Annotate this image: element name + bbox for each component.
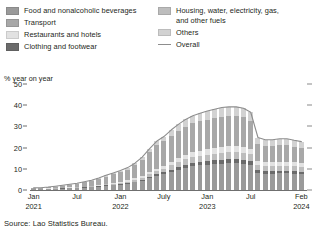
bar-segment xyxy=(234,152,239,159)
bar-column[interactable] xyxy=(182,84,189,190)
bar-segment xyxy=(140,160,145,176)
bar-segment xyxy=(299,148,304,163)
bar-column[interactable] xyxy=(66,84,73,190)
legend-label-transport: Transport xyxy=(24,18,56,28)
bar-column[interactable] xyxy=(283,84,290,190)
bar-column[interactable] xyxy=(131,84,138,190)
bar-column[interactable] xyxy=(44,84,51,190)
legend-label-housing: Housing, water, electricity, gas, and ot… xyxy=(176,6,279,25)
legend-item-overall[interactable]: Overall xyxy=(158,40,320,50)
stacked-bar xyxy=(212,109,217,190)
bar-column[interactable] xyxy=(225,84,232,190)
bar-column[interactable] xyxy=(204,84,211,190)
bar-segment xyxy=(176,170,181,190)
bar-segment xyxy=(212,154,217,161)
bar-segment xyxy=(125,170,130,181)
bar-segment xyxy=(234,163,239,190)
bar-column[interactable] xyxy=(95,84,102,190)
bar-segment xyxy=(284,145,289,161)
bar-column[interactable] xyxy=(37,84,44,190)
stacked-bar xyxy=(118,171,123,190)
y-axis-label: 0 xyxy=(18,186,22,195)
stacked-bar xyxy=(82,182,87,190)
inflation-contributions-chart: Food and nonalcoholic beveragesTransport… xyxy=(0,0,322,237)
bar-column[interactable] xyxy=(88,84,95,190)
bar-column[interactable] xyxy=(59,84,66,190)
stacked-bar xyxy=(270,140,275,190)
bar-column[interactable] xyxy=(160,84,167,190)
bar-segment xyxy=(277,173,282,190)
bar-column[interactable] xyxy=(240,84,247,190)
bar-segment xyxy=(241,164,246,190)
bar-column[interactable] xyxy=(153,84,160,190)
bar-column[interactable] xyxy=(124,84,131,190)
stacked-bar xyxy=(248,112,253,190)
bar-segment xyxy=(226,163,231,190)
legend-label-overall: Overall xyxy=(176,40,200,50)
bar-column[interactable] xyxy=(110,84,117,190)
bar-column[interactable] xyxy=(298,84,305,190)
y-axis-tick xyxy=(23,105,27,106)
x-axis-label: Jul xyxy=(246,192,255,202)
y-axis-tick-right xyxy=(307,190,312,191)
bar-column[interactable] xyxy=(211,84,218,190)
legend-label-food: Food and nonalcoholic beverages xyxy=(24,6,137,16)
y-axis-tick-right xyxy=(307,126,312,127)
bar-column[interactable] xyxy=(175,84,182,190)
legend-item-restaurants[interactable]: Restaurants and hotels xyxy=(6,30,156,40)
bar-segment xyxy=(299,174,304,190)
stacked-bar xyxy=(263,140,268,190)
bar-segment xyxy=(255,144,260,161)
bar-segment xyxy=(111,174,116,182)
y-axis-tick-right xyxy=(307,105,312,106)
bar-segment xyxy=(248,154,253,161)
bar-column[interactable] xyxy=(117,84,124,190)
legend-item-clothing[interactable]: Clothing and footwear xyxy=(6,42,156,52)
bar-column[interactable] xyxy=(233,84,240,190)
bar-column[interactable] xyxy=(146,84,153,190)
bar-column[interactable] xyxy=(254,84,261,190)
bar-segment xyxy=(147,152,152,172)
bar-column[interactable] xyxy=(102,84,109,190)
stacked-bar xyxy=(75,183,80,190)
stacked-bar xyxy=(234,107,239,190)
stacked-bar xyxy=(140,157,145,190)
bar-segment xyxy=(161,141,166,165)
bar-column[interactable] xyxy=(30,84,37,190)
x-axis-label: Jan 2023 xyxy=(199,192,215,211)
bar-column[interactable] xyxy=(247,84,254,190)
bar-column[interactable] xyxy=(269,84,276,190)
bar-column[interactable] xyxy=(196,84,203,190)
bar-segment xyxy=(255,173,260,190)
bar-segment xyxy=(284,173,289,190)
bar-column[interactable] xyxy=(167,84,174,190)
bar-segment xyxy=(270,174,275,190)
bar-segment xyxy=(190,123,195,152)
bar-column[interactable] xyxy=(81,84,88,190)
legend-label-clothing: Clothing and footwear xyxy=(24,42,97,52)
bar-column[interactable] xyxy=(73,84,80,190)
legend-item-housing[interactable]: Housing, water, electricity, gas, and ot… xyxy=(158,6,320,25)
stacked-bar xyxy=(111,173,116,190)
legend-item-food[interactable]: Food and nonalcoholic beverages xyxy=(6,6,156,16)
legend-color-swatch-others xyxy=(158,29,171,37)
bar-segment xyxy=(263,174,268,190)
y-axis-tick xyxy=(23,84,27,85)
stacked-bar xyxy=(132,163,137,190)
bar-column[interactable] xyxy=(262,84,269,190)
stacked-bar xyxy=(241,108,246,190)
stacked-bar xyxy=(125,168,130,190)
bar-column[interactable] xyxy=(52,84,59,190)
bar-column[interactable] xyxy=(139,84,146,190)
legend-label-restaurants: Restaurants and hotels xyxy=(24,30,101,40)
bar-segment xyxy=(140,181,145,190)
bar-column[interactable] xyxy=(189,84,196,190)
bar-segment xyxy=(219,164,224,191)
bar-column[interactable] xyxy=(276,84,283,190)
x-axis-label: Jan 2021 xyxy=(25,192,41,211)
legend-item-transport[interactable]: Transport xyxy=(6,18,156,28)
bar-column[interactable] xyxy=(290,84,297,190)
legend-item-others[interactable]: Others xyxy=(158,28,320,38)
bar-column[interactable] xyxy=(218,84,225,190)
legend-column-right: Housing, water, electricity, gas, and ot… xyxy=(158,6,320,52)
